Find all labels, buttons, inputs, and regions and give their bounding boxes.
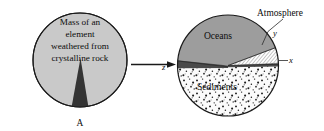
label-sediments: Sediments xyxy=(197,81,237,92)
transfer-arrow xyxy=(131,61,176,68)
label-y: y xyxy=(272,28,277,38)
left-circle-group: Mass of an element weathered from crysta… xyxy=(33,13,127,128)
source-title-line-3: weathered from xyxy=(51,41,109,51)
label-x: x xyxy=(288,55,293,65)
label-atmosphere: Atmosphere xyxy=(257,8,303,18)
label-oceans: Oceans xyxy=(204,30,232,41)
arrow-head xyxy=(167,61,176,68)
right-circle-group: Oceans Sediments Atmosphere y x z xyxy=(161,5,303,125)
diagram-canvas: Mass of an element weathered from crysta… xyxy=(0,0,324,131)
label-a: A xyxy=(77,118,84,128)
source-title-line-2: element xyxy=(65,29,95,39)
figure-root: Mass of an element weathered from crysta… xyxy=(0,0,324,131)
source-title-line-1: Mass of an xyxy=(60,17,101,27)
source-title-line-4: crystalline rock xyxy=(52,53,109,63)
right-circle-slices xyxy=(170,5,292,125)
label-z: z xyxy=(161,62,166,72)
